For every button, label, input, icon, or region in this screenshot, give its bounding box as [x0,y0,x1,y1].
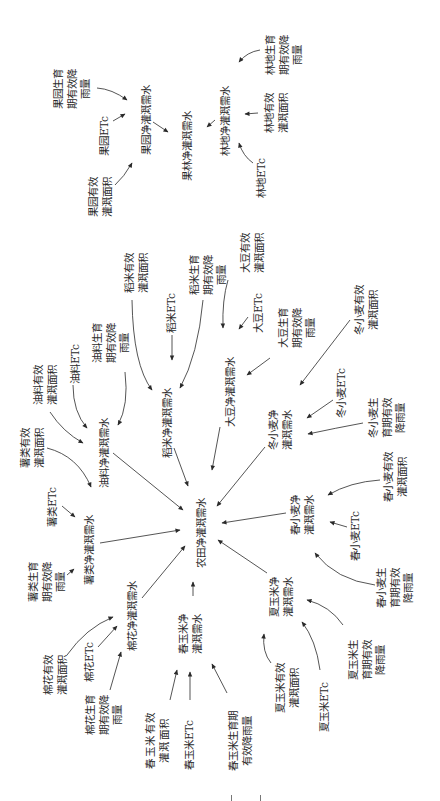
edge-winter-wheat-etc-to-net [307,400,333,418]
node-rice-rainfall: 稻米生育 期有效降 雨量 [188,255,229,295]
node-orchard-area: 果园有效 灌溉面积 [87,177,114,217]
edge-spring-wheat-etc-to-net [330,522,347,527]
node-spring-maize-net: 春玉米净 灌溉需水 [177,614,204,654]
edge-rice-net-to-farm-net [174,448,188,486]
node-summer-maize-area: 夏玉米有效 灌溉面积 [274,663,301,713]
edge-orchard-net-to-fruit-forest-net [153,122,168,132]
edge-spring-wheat-rainfall-to-net [315,553,375,585]
node-orchard-rainfall: 果园生育 期有效降 雨量 [52,69,93,109]
node-cotton-rainfall: 棉花生育 期有效降 雨量 [84,695,125,735]
page-edge-mark [231,795,261,801]
node-forest-area: 林地有效 灌溉面积 [263,93,290,133]
node-spring-maize-rainfall: 春玉米生育期 有效降雨量 [227,711,254,771]
node-potato-etc: 薯类ETc [46,487,60,527]
node-oil-area: 油料有效 灌溉面积 [32,365,59,405]
edge-orchard-rainfall-to-orchard-net [97,88,127,100]
node-summer-maize-net: 夏玉米净 灌溉需水 [268,577,295,617]
edge-oil-etc-to-oil-net [73,385,87,428]
edge-soybean-etc-to-net [239,317,248,329]
edge-summer-maize-rainfall-to-net [307,600,343,625]
node-orchard-net: 果园净灌溉需水 [140,85,154,155]
node-cotton-area: 棉花有效 灌溉面积 [42,655,69,695]
node-oil-net: 油料净灌溉需水 [98,418,112,488]
node-winter-wheat-etc: 冬小麦ETc [335,368,349,418]
edge-spring-maize-rainfall-to-net [212,664,227,693]
edge-potato-rainfall-to-potato-net [67,569,74,575]
node-orchard-etc: 果园ETc [98,116,112,156]
edge-spring-wheat-net-to-farm-net [222,513,286,523]
edge-summer-maize-etc-to-net [302,622,320,670]
node-summer-maize-rainfall: 夏玉米生 育期有效 降雨量 [347,640,388,680]
edge-soybean-net-to-farm-net [212,427,220,470]
edge-oil-net-to-farm-net [113,453,183,510]
node-farm-net-irrigation: 农田净灌溉需水 [195,498,209,568]
node-forest-etc: 林地ETc [255,158,269,198]
edge-orchard-etc-to-orchard-net [113,114,125,121]
node-soybean-area: 大豆有效 灌溉面积 [239,233,266,273]
edge-soybean-rainfall-to-net [247,358,270,375]
node-potato-net: 薯类净灌溉需水 [83,515,97,585]
edge-rice-area-to-rice-net [132,300,152,390]
edge-cotton-net-to-farm-net [142,546,185,598]
node-potato-rainfall: 薯类生育 期有效降 雨量 [27,562,68,602]
edge-potato-net-to-farm-net [100,530,180,543]
node-spring-wheat-rainfall: 春小麦生 育期有效 降雨量 [375,568,416,608]
edge-potato-etc-to-potato-net [62,506,75,517]
edge-winter-wheat-rainfall-to-net [308,423,363,434]
node-forest-rainfall: 林地生育 期有效降 雨量 [264,35,305,75]
node-rice-net: 稻米净灌溉需水 [161,388,175,458]
edge-forest-rainfall-to-forest-net [239,50,260,62]
edge-cotton-etc-to-cotton-net [98,626,117,647]
node-fruit-forest-net-irrigation: 果林净灌溉需水 [181,111,195,181]
edge-oil-rainfall-to-oil-net [118,372,126,425]
edge-oil-area-to-oil-net [50,412,83,443]
node-spring-maize-etc: 春玉米ETc [183,720,197,770]
edge-cotton-rainfall-to-cotton-net [110,652,121,690]
edge-orchard-area-to-orchard-net [115,163,132,185]
node-winter-wheat-area: 冬小麦有效 灌溉面积 [353,285,380,335]
node-summer-maize-etc: 夏玉米ETc [318,682,332,732]
node-forest-net: 林地净灌溉需水 [219,86,233,156]
node-oil-rainfall: 油料生育 期有效降 雨量 [91,323,132,363]
edge-forest-area-to-forest-net [245,113,258,114]
node-spring-wheat-net: 春小麦净 灌溉需水 [289,495,316,535]
node-rice-etc: 稻米ETc [165,293,179,333]
edge-forest-etc-to-forest-net [239,143,253,163]
edge-spring-maize-area-to-net [170,670,177,700]
node-soybean-net: 大豆净灌溉需水 [224,357,238,427]
edge-potato-area-to-potato-net [47,448,91,487]
edge-winter-wheat-net-to-farm-net [217,447,265,506]
irrigation-demand-diagram: 农田净灌溉需水 果林净灌溉需水 果园净灌溉需水 果园ETc 果园有效 灌溉面积 … [0,0,440,801]
edge-summer-maize-net-to-farm-net [218,540,267,573]
node-cotton-net: 棉花净灌溉需水 [126,581,140,651]
node-spring-maize-area: 春玉米有效 灌溉面积 [144,711,171,769]
node-winter-wheat-net: 冬小麦净 灌溉需水 [267,410,294,450]
edge-spring-wheat-area-to-net [328,480,380,495]
node-spring-wheat-etc: 春小麦ETc [349,511,363,561]
node-oil-etc: 油料ETc [69,344,83,384]
node-winter-wheat-rainfall: 冬小麦生 育期有效 降雨量 [367,398,408,438]
node-spring-wheat-area: 春小麦有效 灌溉面积 [382,452,409,502]
node-rice-area: 稻米有效 灌溉面积 [123,253,150,293]
node-soybean-rainfall: 大豆生育 期有效降 雨量 [277,308,318,348]
edge-summer-maize-area-to-net [264,634,271,663]
edge-forest-net-to-fruit-forest-net [207,120,215,127]
node-potato-area: 薯类有效 灌溉面积 [19,428,46,468]
node-cotton-etc: 棉花ETc [83,642,97,682]
node-soybean-etc: 大豆ETc [252,293,266,333]
edge-rice-rainfall-to-rice-net [180,300,203,388]
